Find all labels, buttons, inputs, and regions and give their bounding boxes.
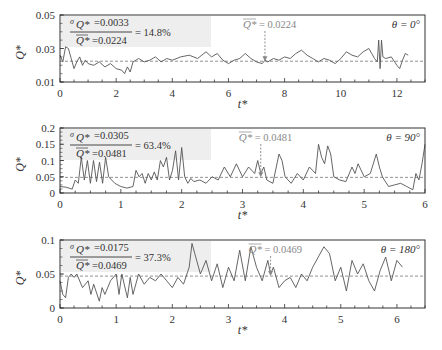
x-tick-label: 3 (226, 313, 232, 325)
y-tick-label: 0.05 (36, 171, 56, 183)
x-axis-label: t* (238, 208, 247, 222)
cov-ratio: = 14.8% (135, 27, 171, 38)
y-tick-label: 0.2 (41, 122, 55, 134)
theta-label: θ = 180° (381, 243, 421, 255)
x-tick-label: 5 (361, 198, 367, 210)
y-tick-label: 0.05 (36, 268, 56, 280)
mean-label-symbol: Q* (239, 131, 253, 143)
mean-value: =0.0469 (92, 260, 127, 271)
y-axis-label: Q* (13, 45, 27, 60)
theta-label: θ = 0° (392, 18, 421, 30)
x-tick-label: 2 (113, 87, 119, 99)
x-tick-label: 1 (113, 313, 119, 325)
sigma-subscript: Q* (76, 131, 90, 143)
panel-theta-90: 012345600.050.10.150.2Q*t*θ = 90°σQ*=0.0… (13, 122, 428, 222)
x-axis-label: t* (238, 97, 247, 111)
x-tick-label: 0 (57, 198, 63, 210)
mean-label-symbol: Q* (243, 18, 257, 30)
panel-theta-180: 012345600.050.1Q*t*θ = 180°σQ*=0.0175Q*=… (13, 234, 425, 337)
x-tick-label: 6 (394, 313, 400, 325)
mean-value: =0.0481 (92, 148, 127, 159)
mean-label-symbol: Q* (249, 243, 263, 255)
mean-symbol: Q* (76, 259, 90, 271)
panel-theta-0: 0246810120.010.030.05Q*t*θ = 0°σQ*=0.003… (13, 9, 425, 111)
sigma-subscript: Q* (76, 18, 90, 30)
x-tick-label: 4 (170, 87, 176, 99)
mean-value: =0.0224 (92, 35, 128, 46)
y-tick-label: 0.1 (41, 234, 55, 246)
mean-symbol: Q* (76, 147, 90, 159)
y-tick-label: 0.05 (36, 9, 56, 21)
theta-label: θ = 90° (386, 131, 420, 143)
sigma-value: =0.0305 (94, 130, 129, 141)
x-tick-label: 6 (226, 87, 232, 99)
mean-symbol: Q* (76, 34, 90, 46)
mean-arrow-head-icon (268, 271, 273, 276)
figure: 0246810120.010.030.05Q*t*θ = 0°σQ*=0.003… (0, 0, 442, 350)
x-tick-label: 4 (301, 198, 307, 210)
y-tick-label: 0 (50, 187, 56, 199)
cov-ratio: = 63.4% (135, 140, 171, 151)
y-tick-label: 0.1 (41, 155, 55, 167)
x-tick-label: 6 (422, 198, 428, 210)
x-tick-label: 1 (118, 198, 124, 210)
mean-arrow-head-icon (258, 172, 263, 177)
x-tick-label: 0 (57, 313, 63, 325)
x-tick-label: 10 (335, 87, 347, 99)
y-tick-label: 0.03 (36, 43, 56, 55)
mean-label-value: = 0.0481 (255, 132, 292, 143)
y-tick-label: 0.15 (36, 138, 56, 150)
sigma-value: =0.0175 (94, 242, 129, 253)
y-axis-label: Q* (13, 157, 27, 172)
x-tick-label: 12 (391, 87, 402, 99)
sigma-subscript: Q* (76, 243, 90, 255)
y-axis-label: Q* (13, 271, 27, 286)
y-tick-label: 0 (50, 302, 56, 314)
mean-arrow-head-icon (262, 56, 267, 61)
mean-label-value: = 0.0224 (259, 19, 297, 30)
cov-ratio: = 37.3% (135, 252, 171, 263)
x-tick-label: 8 (282, 87, 288, 99)
mean-label-value: = 0.0469 (265, 244, 302, 255)
sigma-value: =0.0033 (94, 17, 129, 28)
y-tick-label: 0.01 (36, 76, 55, 88)
x-tick-label: 2 (170, 313, 176, 325)
x-tick-label: 2 (179, 198, 185, 210)
x-tick-label: 4 (282, 313, 288, 325)
x-tick-label: 5 (338, 313, 344, 325)
x-axis-label: t* (238, 323, 247, 337)
x-tick-label: 0 (57, 87, 63, 99)
